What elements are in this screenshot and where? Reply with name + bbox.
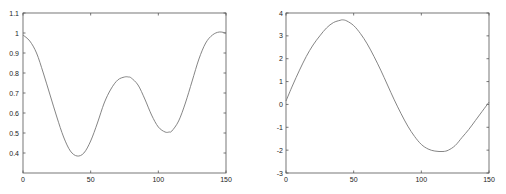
axes-frame [286, 13, 489, 173]
x-tick-label: 100 [415, 176, 427, 183]
data-line [23, 32, 226, 156]
y-axis: -3 -2 -1 0 1 2 3 4 [277, 10, 283, 177]
y-tick-label: -3 [277, 170, 283, 177]
y-tick-label: 0.5 [9, 130, 19, 137]
y-tick-label: 0.8 [9, 70, 19, 77]
x-tick-label: 150 [483, 176, 495, 183]
x-axis: 0 50 100 150 [21, 176, 232, 183]
tick-marks [286, 13, 489, 173]
y-tick-label: 1.1 [9, 10, 19, 17]
y-tick-label: 4 [279, 10, 283, 17]
x-tick-label: 150 [220, 176, 232, 183]
tick-marks [23, 13, 226, 173]
x-axis: 0 50 100 150 [284, 176, 495, 183]
y-tick-label: -2 [277, 147, 283, 154]
y-tick-label: 1 [279, 78, 283, 85]
axes-frame [23, 13, 226, 173]
y-axis: 0.4 0.5 0.6 0.7 0.8 0.9 1 1.1 [9, 10, 19, 157]
x-tick-label: 50 [350, 176, 358, 183]
x-tick-label: 100 [152, 176, 164, 183]
y-tick-label: -1 [277, 124, 283, 131]
y-tick-label: 0.7 [9, 90, 19, 97]
x-tick-label: 50 [87, 176, 95, 183]
chart-right: -3 -2 -1 0 1 2 3 4 0 50 100 150 [277, 10, 495, 184]
y-tick-label: 0.4 [9, 150, 19, 157]
y-tick-label: 0.6 [9, 110, 19, 117]
y-tick-label: 0 [279, 101, 283, 108]
x-tick-label: 0 [284, 176, 288, 183]
x-tick-label: 0 [21, 176, 25, 183]
data-line [286, 20, 489, 152]
chart-left: 0.4 0.5 0.6 0.7 0.8 0.9 1 1.1 0 50 100 1… [9, 10, 232, 184]
y-tick-label: 1 [15, 30, 19, 37]
y-tick-label: 2 [279, 55, 283, 62]
figure: 0.4 0.5 0.6 0.7 0.8 0.9 1 1.1 0 50 100 1… [0, 0, 506, 194]
y-tick-label: 0.9 [9, 50, 19, 57]
y-tick-label: 3 [279, 32, 283, 39]
